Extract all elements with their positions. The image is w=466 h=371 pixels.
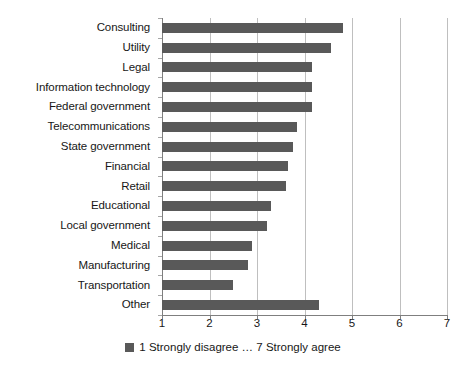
gridline <box>447 18 448 315</box>
bar <box>162 241 252 251</box>
category-label: Medical <box>0 236 156 256</box>
bar <box>162 82 312 92</box>
bar <box>162 23 343 33</box>
bar-row <box>162 176 447 196</box>
bar <box>162 142 293 152</box>
category-label: Telecommunications <box>0 117 156 137</box>
bar <box>162 161 288 171</box>
bar-row <box>162 77 447 97</box>
category-label: Legal <box>0 58 156 78</box>
legend-swatch-icon <box>125 343 134 352</box>
bar-series <box>162 18 447 315</box>
plot-area <box>162 18 447 315</box>
bar-row <box>162 157 447 177</box>
x-axis-tick-label: 5 <box>349 318 355 330</box>
bar-row <box>162 295 447 315</box>
bar-row <box>162 275 447 295</box>
category-label: Educational <box>0 196 156 216</box>
bar <box>162 201 271 211</box>
category-label: Financial <box>0 157 156 177</box>
bar <box>162 43 331 53</box>
category-label: Utility <box>0 38 156 58</box>
x-axis-tick-label: 2 <box>206 318 212 330</box>
bar <box>162 122 297 132</box>
category-label: Retail <box>0 176 156 196</box>
bar-row <box>162 117 447 137</box>
bar <box>162 62 312 72</box>
bar-row <box>162 38 447 58</box>
category-label: State government <box>0 137 156 157</box>
x-axis-tick-label: 4 <box>301 318 307 330</box>
bar <box>162 181 286 191</box>
category-label: Other <box>0 295 156 315</box>
chart-legend: 1 Strongly disagree … 7 Strongly agree <box>0 342 466 354</box>
bar-row <box>162 196 447 216</box>
bar-row <box>162 137 447 157</box>
x-axis-tick-labels: 1234567 <box>162 318 447 334</box>
bar <box>162 280 233 290</box>
category-label: Transportation <box>0 275 156 295</box>
bar-row <box>162 256 447 276</box>
x-axis-tick-label: 6 <box>396 318 402 330</box>
category-label: Manufacturing <box>0 256 156 276</box>
category-axis-labels: ConsultingUtilityLegalInformation techno… <box>0 18 156 315</box>
bar-chart: ConsultingUtilityLegalInformation techno… <box>0 0 466 371</box>
legend-label: 1 Strongly disagree … 7 Strongly agree <box>139 342 340 354</box>
x-axis-tick-label: 7 <box>444 318 450 330</box>
category-label: Federal government <box>0 97 156 117</box>
bar-row <box>162 97 447 117</box>
x-axis-line <box>162 315 447 316</box>
bar-row <box>162 236 447 256</box>
x-axis-tick-label: 3 <box>254 318 260 330</box>
bar <box>162 221 267 231</box>
category-label: Local government <box>0 216 156 236</box>
bar <box>162 300 319 310</box>
bar-row <box>162 58 447 78</box>
bar <box>162 102 312 112</box>
bar-row <box>162 216 447 236</box>
category-label: Consulting <box>0 18 156 38</box>
x-axis-tick-label: 1 <box>159 318 165 330</box>
bar <box>162 260 248 270</box>
category-label: Information technology <box>0 77 156 97</box>
bar-row <box>162 18 447 38</box>
